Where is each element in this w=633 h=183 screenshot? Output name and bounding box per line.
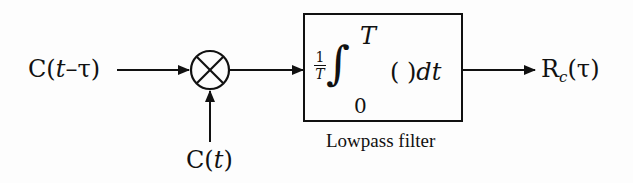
mixer-icon [191,51,229,89]
filter-formula: 1 T ∫ T 0 ( )dt [312,18,460,118]
input-reference-label: C(t) [186,148,233,172]
integrand: ( )dt [390,58,441,86]
output-label: Rc(τ) [541,57,600,85]
fraction-one-over-t: 1 T [314,50,326,81]
integral-sign: ∫ [326,40,350,86]
input-delayed-label: C(t–τ) [28,57,100,81]
integral-upper-limit: T [360,22,376,50]
integral-lower-limit: 0 [354,94,367,118]
filter-caption: Lowpass filter [326,130,435,152]
